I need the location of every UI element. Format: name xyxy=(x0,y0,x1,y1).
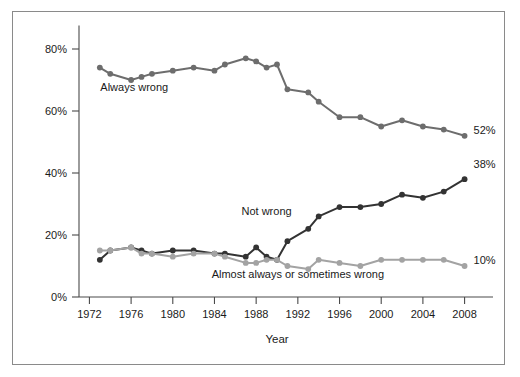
data-point xyxy=(139,251,145,257)
x-tick-label: 1972 xyxy=(77,308,101,320)
x-tick-label: 1996 xyxy=(327,308,351,320)
line-chart: 0%20%40%60%80% 1972197619801984198819921… xyxy=(13,12,504,364)
y-axis-tick-labels: 0%20%40%60%80% xyxy=(45,43,67,303)
data-point xyxy=(243,55,249,61)
data-point xyxy=(107,248,113,254)
data-point xyxy=(337,260,343,266)
data-point xyxy=(253,59,259,65)
series-end-label: 10% xyxy=(474,254,496,266)
x-tick-label: 2000 xyxy=(369,308,393,320)
series-line xyxy=(100,179,465,260)
x-tick-marks xyxy=(89,297,464,304)
data-point xyxy=(212,251,218,257)
x-tick-label: 1992 xyxy=(286,308,310,320)
data-point xyxy=(357,114,363,120)
data-point xyxy=(441,189,447,195)
data-point xyxy=(285,238,291,244)
data-point xyxy=(107,71,113,77)
data-point xyxy=(305,226,311,232)
data-point xyxy=(139,74,145,80)
data-point xyxy=(97,257,103,263)
y-tick-label: 80% xyxy=(45,43,67,55)
data-point xyxy=(420,195,426,201)
data-point xyxy=(420,124,426,130)
data-point xyxy=(316,257,322,263)
data-point xyxy=(149,251,155,257)
data-point xyxy=(170,248,176,254)
data-point xyxy=(378,124,384,130)
data-point xyxy=(243,260,249,266)
data-point xyxy=(399,257,405,263)
data-point xyxy=(264,65,270,71)
data-point xyxy=(253,245,259,251)
series-end-value-labels: 52%38%10% xyxy=(474,124,496,266)
data-point xyxy=(191,65,197,71)
series-label: Not wrong xyxy=(242,205,292,217)
series-end-label: 38% xyxy=(474,158,496,170)
series-end-label: 52% xyxy=(474,124,496,136)
data-point xyxy=(285,86,291,92)
data-point xyxy=(222,62,228,68)
data-point xyxy=(316,214,322,220)
data-point xyxy=(212,68,218,74)
data-point xyxy=(462,133,468,139)
data-point xyxy=(337,204,343,210)
series-label: Always wrong xyxy=(100,81,168,93)
data-point xyxy=(378,257,384,263)
y-tick-label: 0% xyxy=(51,291,67,303)
x-axis-tick-labels: 1972197619801984198819921996200020042008 xyxy=(77,308,477,320)
x-tick-label: 2008 xyxy=(452,308,476,320)
data-point xyxy=(462,263,468,269)
x-tick-label: 2004 xyxy=(411,308,435,320)
x-axis-title: Year xyxy=(265,333,288,345)
data-point xyxy=(191,251,197,257)
x-tick-label: 1984 xyxy=(202,308,226,320)
series-label: Almost always or sometimes wrong xyxy=(212,268,384,280)
series-1 xyxy=(97,176,468,262)
data-point xyxy=(441,257,447,263)
series-line xyxy=(100,58,465,136)
figure-frame: 0%20%40%60%80% 1972197619801984198819921… xyxy=(12,11,505,365)
data-point xyxy=(337,114,343,120)
data-point xyxy=(462,176,468,182)
data-point xyxy=(305,90,311,96)
x-tick-label: 1980 xyxy=(161,308,185,320)
data-point xyxy=(399,192,405,198)
data-point xyxy=(97,248,103,254)
data-point xyxy=(128,245,134,251)
data-point xyxy=(170,254,176,260)
x-tick-label: 1988 xyxy=(244,308,268,320)
data-point xyxy=(274,257,280,263)
x-tick-label: 1976 xyxy=(119,308,143,320)
data-point xyxy=(253,260,259,266)
data-point xyxy=(243,254,249,260)
data-point xyxy=(149,71,155,77)
y-tick-label: 20% xyxy=(45,229,67,241)
data-point xyxy=(274,62,280,68)
data-point xyxy=(222,254,228,260)
y-tick-label: 60% xyxy=(45,105,67,117)
data-point xyxy=(378,201,384,207)
data-point xyxy=(357,204,363,210)
data-point xyxy=(316,99,322,105)
y-tick-marks xyxy=(72,49,79,297)
series-0 xyxy=(97,55,468,138)
data-point xyxy=(97,65,103,71)
data-point xyxy=(264,257,270,263)
data-point xyxy=(399,117,405,123)
data-point xyxy=(441,127,447,133)
data-point xyxy=(170,68,176,74)
data-point xyxy=(420,257,426,263)
y-tick-label: 40% xyxy=(45,167,67,179)
